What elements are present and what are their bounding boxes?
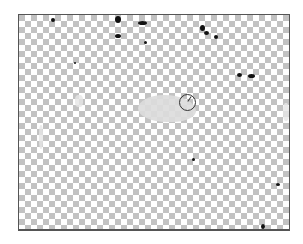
- image-canvas[interactable]: [18, 14, 290, 231]
- speck: [51, 18, 55, 22]
- speck: [276, 183, 280, 186]
- faint-mark: [39, 125, 43, 149]
- speck: [138, 21, 147, 25]
- speck: [204, 31, 209, 35]
- speck: [237, 73, 242, 77]
- speck: [214, 35, 218, 39]
- speck: [248, 74, 255, 78]
- speck: [200, 25, 205, 31]
- speck: [261, 224, 265, 229]
- speck: [115, 34, 121, 38]
- brush-cursor-icon: [179, 94, 196, 111]
- faint-mark: [283, 103, 289, 121]
- speck: [74, 62, 76, 64]
- faint-mark: [75, 95, 83, 107]
- speck: [192, 158, 195, 161]
- speck: [115, 16, 121, 23]
- speck: [144, 41, 147, 44]
